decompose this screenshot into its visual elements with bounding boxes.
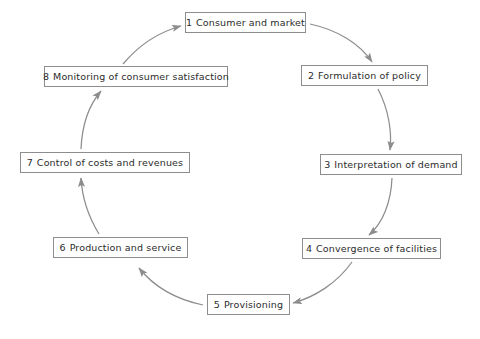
- node-2-formulation-of-policy[interactable]: 2 Formulation of policy: [301, 65, 428, 86]
- node-4-label: Convergence of facilities: [316, 244, 437, 254]
- node-5-label: Provisioning: [224, 300, 283, 310]
- node-4-convergence-of-facilities[interactable]: 4 Convergence of facilities: [302, 238, 441, 259]
- node-3-interpretation-of-demand[interactable]: 3 Interpretation of demand: [320, 154, 462, 175]
- node-5-provisioning[interactable]: 5 Provisioning: [207, 294, 290, 315]
- cycle-diagram: 1 Consumer and market 2 Formulation of p…: [0, 0, 480, 339]
- arrow-2-to-3: [378, 89, 391, 150]
- arrow-3-to-4: [369, 178, 392, 235]
- arrow-8-to-1: [123, 26, 181, 64]
- arrow-4-to-5: [293, 262, 352, 303]
- node-3-label: Interpretation of demand: [334, 160, 457, 170]
- node-2-number: 2: [308, 71, 314, 81]
- arrow-7-to-8: [81, 91, 101, 149]
- node-8-label: Monitoring of consumer satisfaction: [53, 72, 229, 82]
- arrow-6-to-7: [81, 178, 99, 234]
- node-2-label: Formulation of policy: [318, 71, 421, 81]
- node-6-label: Production and service: [70, 243, 182, 253]
- node-1-number: 1: [186, 18, 192, 28]
- node-1-consumer-and-market[interactable]: 1 Consumer and market: [185, 12, 306, 33]
- node-7-control-of-costs-and-revenues[interactable]: 7 Control of costs and revenues: [20, 152, 190, 173]
- node-6-number: 6: [60, 243, 66, 253]
- node-8-monitoring-of-consumer-satisfaction[interactable]: 8 Monitoring of consumer satisfaction: [44, 66, 228, 87]
- node-8-number: 8: [43, 72, 49, 82]
- node-3-number: 3: [324, 160, 330, 170]
- node-4-number: 4: [306, 244, 312, 254]
- node-6-production-and-service[interactable]: 6 Production and service: [53, 237, 188, 258]
- node-7-label: Control of costs and revenues: [37, 158, 183, 168]
- arrow-1-to-2: [310, 24, 372, 62]
- node-7-number: 7: [27, 158, 33, 168]
- node-1-label: Consumer and market: [196, 18, 305, 28]
- arrow-5-to-6: [139, 268, 203, 305]
- node-5-number: 5: [214, 300, 220, 310]
